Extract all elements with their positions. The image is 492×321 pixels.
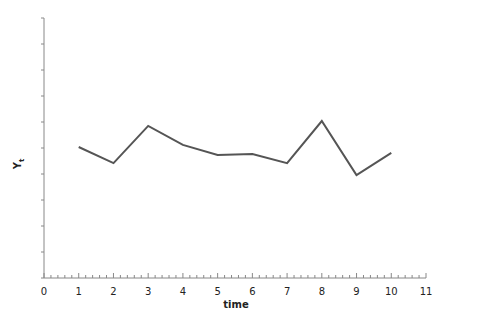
x-tick-label: 2 [110, 286, 116, 297]
x-tick-label: 1 [76, 286, 82, 297]
y-axis [41, 18, 44, 278]
line-chart: 01234567891011 time Yt [0, 0, 492, 321]
x-tick-label: 8 [319, 286, 325, 297]
x-tick-label: 11 [420, 286, 433, 297]
x-axis [44, 273, 426, 278]
x-tick-label: 3 [145, 286, 151, 297]
x-tick-label: 4 [180, 286, 186, 297]
x-tick-label: 0 [41, 286, 47, 297]
x-tick-label: 5 [214, 286, 220, 297]
x-axis-label: time [223, 299, 249, 310]
y-axis-label: Yt [12, 158, 26, 170]
x-tick-label: 6 [249, 286, 255, 297]
x-tick-label: 9 [353, 286, 359, 297]
y-axis-label-subscript: t [18, 158, 26, 162]
x-tick-label: 7 [284, 286, 290, 297]
x-tick-labels: 01234567891011 [41, 286, 433, 297]
x-tick-label: 10 [385, 286, 398, 297]
series-line-yt [79, 121, 392, 175]
